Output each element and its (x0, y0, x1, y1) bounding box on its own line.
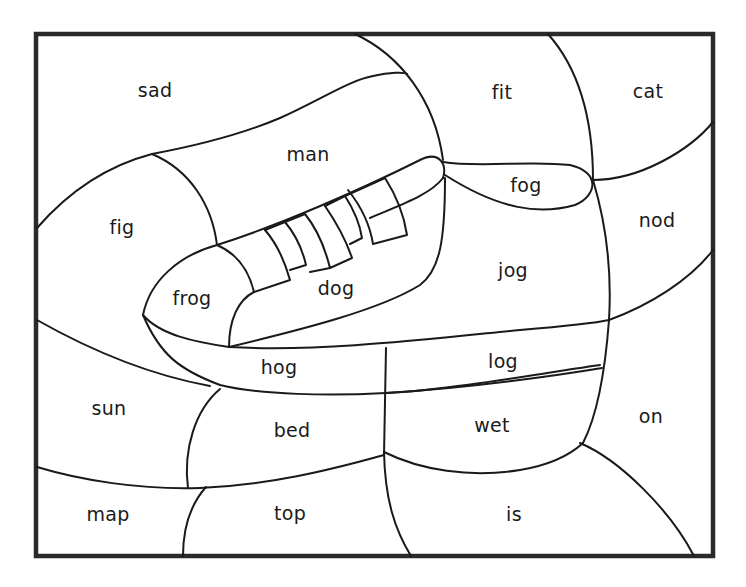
lace-strip-bottom (370, 178, 443, 218)
sole-band-bottom (143, 315, 602, 394)
shoe-collar-inner (373, 73, 407, 76)
worksheet-frame (36, 34, 713, 556)
is-on-divider (580, 443, 694, 556)
region-label-fit[interactable]: fit (492, 81, 512, 103)
fig-man-divider (152, 154, 217, 245)
lace-flap-1 (217, 230, 290, 292)
region-label-is[interactable]: is (506, 503, 522, 525)
lace-flap-2 (265, 222, 306, 270)
region-label-bed[interactable]: bed (274, 419, 311, 441)
jog-nod-divider (593, 180, 610, 320)
dog-bottom-edge (229, 178, 445, 347)
region-label-dog[interactable]: dog (318, 277, 355, 299)
fit-cat-divider (548, 34, 593, 180)
region-label-log[interactable]: log (488, 350, 518, 372)
region-label-frog[interactable]: frog (173, 287, 212, 309)
shoe-collar-curve (355, 34, 443, 160)
sun-bed-divider (187, 389, 220, 488)
top-is-divider (384, 452, 411, 556)
wet-bottom-curve (384, 443, 583, 473)
bed-bottom-curve (37, 455, 384, 488)
sun-top-curve (37, 320, 210, 386)
nod-on-divider (609, 250, 713, 320)
region-label-on[interactable]: on (639, 405, 663, 427)
cat-nod-divider (593, 122, 713, 180)
wet-on-divider (583, 320, 609, 443)
region-label-sun[interactable]: sun (92, 397, 127, 419)
region-label-hog[interactable]: hog (261, 356, 298, 378)
frog-dog-divider (229, 292, 254, 347)
region-label-wet[interactable]: wet (474, 414, 510, 436)
region-label-sad[interactable]: sad (138, 79, 173, 101)
sole-band-top (229, 320, 609, 348)
region-label-fig[interactable]: fig (110, 216, 135, 238)
region-label-fog[interactable]: fog (510, 174, 541, 196)
region-label-map[interactable]: map (86, 503, 129, 525)
region-label-nod[interactable]: nod (639, 209, 676, 231)
hog-log-divider (384, 348, 386, 455)
region-label-top[interactable]: top (274, 502, 306, 524)
region-label-jog[interactable]: jog (498, 259, 528, 281)
region-label-man[interactable]: man (286, 143, 329, 165)
map-top-divider (183, 487, 206, 556)
region-label-cat[interactable]: cat (633, 80, 663, 102)
